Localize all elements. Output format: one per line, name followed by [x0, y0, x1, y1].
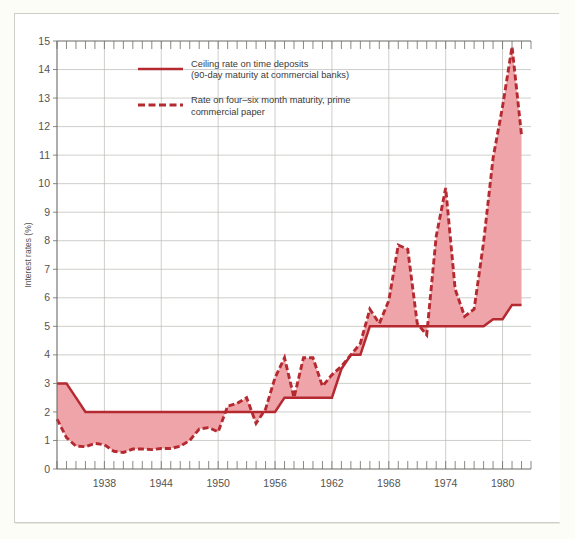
plot-area-wrapper: 0123456789101112131415 19381944195019561…	[15, 14, 558, 522]
y-tick-label-1: 1	[44, 434, 50, 446]
y-tick-label-12: 12	[38, 120, 50, 132]
y-tick-label-4: 4	[44, 348, 50, 360]
interest-rates-area-chart: 0123456789101112131415 19381944195019561…	[15, 14, 560, 522]
legend-label-paper-line2: commercial paper	[191, 107, 265, 117]
x-tick-label-1974: 1974	[434, 477, 458, 489]
y-tick-label-9: 9	[44, 206, 50, 218]
chart-frame: 0123456789101112131415 19381944195019561…	[14, 13, 559, 523]
y-axis-title: Interest rates (%)	[23, 222, 33, 287]
y-tick-label-8: 8	[44, 234, 50, 246]
y-tick-label-14: 14	[38, 63, 50, 75]
x-tick-label-1980: 1980	[491, 477, 515, 489]
x-tick-label-1956: 1956	[263, 477, 287, 489]
x-tick-label-1944: 1944	[150, 477, 174, 489]
y-tick-label-15: 15	[38, 35, 50, 47]
y-tick-label-2: 2	[44, 406, 50, 418]
y-tick-label-11: 11	[39, 149, 50, 161]
y-tick-label-6: 6	[44, 291, 50, 303]
x-tick-label-1950: 1950	[206, 477, 230, 489]
x-tick-label-1968: 1968	[377, 477, 401, 489]
x-tick-label-1938: 1938	[93, 477, 117, 489]
y-tick-label-3: 3	[44, 377, 50, 389]
chart-page: 0123456789101112131415 19381944195019561…	[0, 0, 575, 539]
y-tick-label-10: 10	[38, 177, 50, 189]
legend-label-ceiling-line2: (90-day maturity at commercial banks)	[191, 70, 349, 80]
y-tick-label-7: 7	[44, 263, 50, 275]
y-tick-label-5: 5	[44, 320, 50, 332]
y-tick-label-13: 13	[38, 92, 50, 104]
plot-background	[15, 14, 560, 522]
legend-label-paper-line1: Rate on four–six month maturity, prime	[191, 95, 351, 105]
y-tick-label-0: 0	[44, 463, 50, 475]
legend-label-ceiling-line1: Ceiling rate on time deposits	[191, 59, 309, 69]
x-tick-label-1962: 1962	[320, 477, 344, 489]
